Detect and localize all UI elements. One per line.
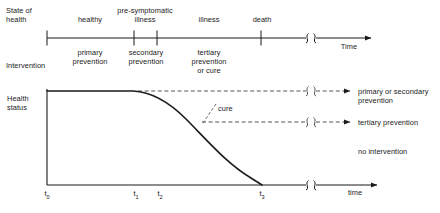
dashed-line-primary-break-right [314,87,317,97]
x-axis-break-right [314,181,317,191]
dashed-line-tertiary-break-left [306,118,309,128]
top-axis-break-right [314,34,317,44]
health-status-chart-axes [47,89,377,190]
x-axis-break-left [306,181,309,191]
top-timeline-axis [47,31,371,46]
health-status-curve-no-intervention [47,91,262,185]
top-axis-break-left [306,34,309,44]
natural-history-of-disease-diagram: State of health Intervention Health stat… [0,0,440,213]
cure-leader-line [203,104,216,123]
dashed-line-primary-break-left [306,87,309,97]
dashed-line-tertiary-break-right [314,118,317,128]
outcome-trajectory-lines [138,87,350,128]
diagram-vector-layer [0,0,440,213]
